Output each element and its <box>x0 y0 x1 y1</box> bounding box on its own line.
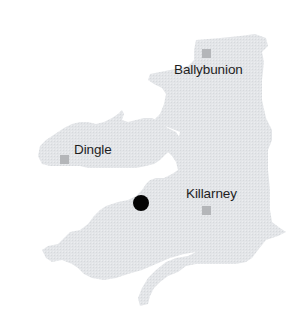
town-marker-ballybunion[interactable] <box>202 49 211 58</box>
town-label-ballybunion: Ballybunion <box>174 62 243 77</box>
county-land-shape <box>0 0 308 322</box>
map: Ballybunion Dingle Killarney <box>0 0 308 322</box>
town-marker-killarney[interactable] <box>202 206 211 215</box>
current-location-dot-icon[interactable] <box>133 195 149 211</box>
town-label-killarney: Killarney <box>186 186 237 201</box>
town-label-dingle: Dingle <box>74 142 112 157</box>
town-marker-dingle[interactable] <box>60 155 69 164</box>
